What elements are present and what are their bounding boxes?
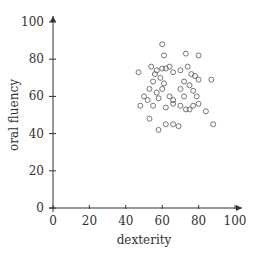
data-point <box>211 122 216 127</box>
data-point <box>209 77 214 82</box>
x-axis-title: dexterity <box>117 233 172 247</box>
data-point <box>156 127 161 132</box>
data-point <box>171 70 176 75</box>
data-point <box>151 103 156 108</box>
x-tick-label: 20 <box>82 214 97 228</box>
data-point <box>185 64 190 69</box>
x-tick-label: 80 <box>191 214 206 228</box>
y-tick-label: 80 <box>29 52 44 66</box>
data-point <box>147 86 152 91</box>
data-point <box>196 101 201 106</box>
data-point <box>138 103 143 108</box>
data-point <box>162 81 167 86</box>
data-point <box>160 86 165 91</box>
data-point <box>156 96 161 101</box>
data-point <box>182 79 187 84</box>
data-point <box>203 109 208 114</box>
data-point <box>182 94 187 99</box>
x-tick-label: 40 <box>118 214 133 228</box>
data-point <box>154 90 159 95</box>
data-point <box>178 68 183 73</box>
data-point <box>196 53 201 58</box>
data-point <box>187 107 192 112</box>
y-tick-label: 100 <box>21 15 44 29</box>
data-point <box>145 98 150 103</box>
x-tick-label: 100 <box>224 214 247 228</box>
data-point <box>178 103 183 108</box>
y-ticks: 020406080100 <box>21 15 56 215</box>
y-tick-label: 60 <box>29 89 44 103</box>
scatter-chart: 020406080100 020406080100 dexterity oral… <box>0 0 257 258</box>
data-point <box>162 53 167 58</box>
data-point <box>149 64 154 69</box>
data-point <box>147 116 152 121</box>
data-point <box>178 86 183 91</box>
data-point <box>183 51 188 56</box>
y-tick-label: 40 <box>29 127 44 141</box>
data-points <box>136 42 216 133</box>
data-point <box>163 122 168 127</box>
data-point <box>191 88 196 93</box>
data-point <box>194 94 199 99</box>
data-point <box>151 79 156 84</box>
y-axis-title: oral fluency <box>7 79 21 151</box>
data-point <box>176 124 181 129</box>
data-point <box>163 105 168 110</box>
data-point <box>160 42 165 47</box>
x-tick-label: 0 <box>49 214 57 228</box>
y-tick-label: 20 <box>29 164 44 178</box>
y-tick-label: 0 <box>36 201 44 215</box>
data-point <box>171 98 176 103</box>
data-point <box>158 75 163 80</box>
x-tick-label: 60 <box>155 214 170 228</box>
data-point <box>187 83 192 88</box>
data-point <box>196 77 201 82</box>
data-point <box>136 70 141 75</box>
data-point <box>171 122 176 127</box>
axes <box>49 16 242 212</box>
